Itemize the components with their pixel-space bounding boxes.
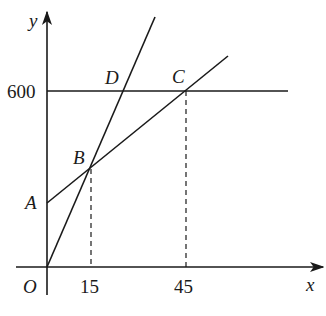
x-axis-label: x xyxy=(305,274,315,295)
x-tick-45: 45 xyxy=(174,276,193,297)
point-B-label: B xyxy=(73,147,85,168)
coordinate-diagram: y x O 600 15 45 A B C D xyxy=(0,0,326,316)
line-OD xyxy=(47,17,155,267)
y-tick-600: 600 xyxy=(7,81,36,102)
y-axis-label: y xyxy=(27,10,38,31)
line-AC xyxy=(47,56,228,203)
point-A-label: A xyxy=(23,192,37,213)
origin-label: O xyxy=(23,276,37,297)
x-tick-15: 15 xyxy=(80,276,99,297)
point-D-label: D xyxy=(104,67,119,88)
point-C-label: C xyxy=(172,66,185,87)
